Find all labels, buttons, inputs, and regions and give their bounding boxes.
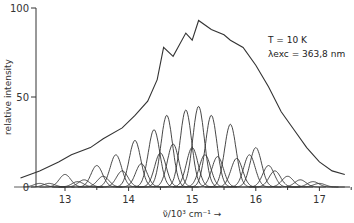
y-axis: 100 50 0 relative intensity [3, 3, 36, 193]
x-tick-17: 17 [313, 194, 326, 205]
y-tick-100: 100 [10, 3, 29, 14]
x-tick-15: 15 [186, 194, 199, 205]
y-axis-label: relative intensity [3, 58, 13, 135]
x-tick-16: 16 [249, 194, 262, 205]
spectrum-chart: 100 50 0 relative intensity 1314151617 ν… [0, 0, 354, 223]
x-axis-label: ν̃/10³ cm⁻¹ → [163, 209, 222, 219]
component-peak [110, 141, 161, 188]
component-peak [160, 110, 211, 187]
component-peak [173, 107, 224, 188]
component-peak [78, 176, 129, 187]
x-tick-14: 14 [122, 194, 135, 205]
y-tick-0: 0 [23, 182, 29, 193]
component-peak [116, 164, 167, 187]
component-peak [71, 166, 122, 188]
y-tick-50: 50 [16, 92, 29, 103]
component-peak [90, 155, 141, 187]
x-tick-13: 13 [59, 194, 72, 205]
temperature-annotation: T = 10 K [267, 35, 308, 45]
excitation-annotation: λexc = 363,8 nm [268, 49, 345, 59]
annotations: T = 10 K λexc = 363,8 nm [267, 35, 345, 59]
component-peak [230, 148, 281, 187]
component-peak [211, 158, 262, 187]
component-peaks [14, 107, 345, 188]
x-axis: 1314151617 ν̃/10³ cm⁻¹ → [36, 187, 351, 219]
component-peak [167, 148, 218, 187]
